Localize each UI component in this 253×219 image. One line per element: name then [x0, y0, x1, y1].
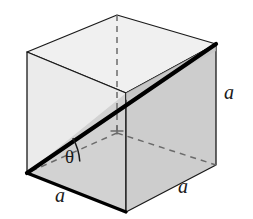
edge-label-bottom-right: a: [178, 176, 188, 196]
edge-label-vertical-right: a: [224, 82, 234, 102]
cube-diagram-svg: [0, 0, 253, 219]
cube-figure: θ a a a: [0, 0, 253, 219]
edge-label-bottom-left: a: [55, 185, 65, 205]
angle-label-theta: θ: [65, 147, 74, 166]
